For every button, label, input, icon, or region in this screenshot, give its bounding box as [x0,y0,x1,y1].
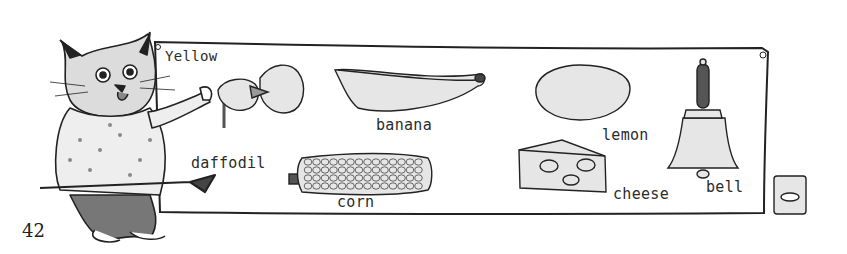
label-banana: banana [376,116,432,134]
label-lemon: lemon [602,126,649,144]
chart-board [155,42,768,214]
page-number: 42 [22,220,45,241]
can-image [774,176,806,214]
label-corn: corn [337,193,374,211]
label-bell: bell [706,178,743,196]
chart-title: Yellow [165,48,217,64]
label-daffodil: daffodil [191,154,266,172]
label-cheese: cheese [613,185,669,203]
corn-image [289,154,432,195]
